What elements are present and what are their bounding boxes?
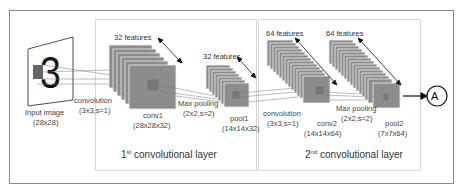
conv1-stack xyxy=(109,45,176,109)
pool1-op-params: (2x2,s=2) xyxy=(183,109,214,119)
pool2-features-label: 64 features xyxy=(326,29,364,38)
layer2-sup: nd xyxy=(311,149,318,155)
conv1-features-label: 32 features xyxy=(114,33,152,42)
input-digit: 3 xyxy=(40,48,61,98)
pool1-size: (14x14x32) xyxy=(222,124,260,134)
conv2-features-label: 64 features xyxy=(266,29,304,38)
layer2-title-text: convolutional layer xyxy=(320,149,403,160)
pool2-op-label: Max pooling xyxy=(336,104,376,114)
input-image-label: Input image xyxy=(25,108,64,118)
conv1-op-params: (3x3,s=1) xyxy=(79,106,110,116)
layer1-sup: st xyxy=(127,149,132,155)
conv1-op-label: convolution xyxy=(74,96,112,106)
layer1-title-text: convolutional layer xyxy=(134,149,217,160)
pool2-stack xyxy=(329,40,400,108)
pool1-op-label: Max pooling xyxy=(178,99,218,109)
conv2-size: (14x14x64) xyxy=(304,129,342,139)
output-node-label: A xyxy=(431,89,438,103)
input-receptive-field xyxy=(33,65,43,79)
conv2-label: conv2 xyxy=(317,119,337,129)
cnn-diagram-graphics: 3 xyxy=(0,0,465,196)
output-arrow xyxy=(403,93,427,99)
conv1-size: (28x28x32) xyxy=(133,121,171,131)
pool2-label: pool2 xyxy=(385,119,403,129)
layer1-title: 1st convolutional layer xyxy=(121,149,217,160)
pool1-features-label: 32 features xyxy=(203,52,241,61)
pool1-label: pool1 xyxy=(230,114,248,124)
layer2-title: 2nd convolutional layer xyxy=(305,149,403,160)
input-image-size: (28x28) xyxy=(33,118,58,128)
conv2-op-label: convolution xyxy=(263,109,301,119)
pool2-op-params: (2x2,s=2) xyxy=(341,114,372,124)
conv2-op-params: (3x3,s=1) xyxy=(267,119,298,129)
pool2-size: (7x7x64) xyxy=(378,129,407,139)
conv1-label: conv1 xyxy=(143,111,163,121)
